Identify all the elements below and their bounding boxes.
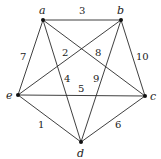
edge-d-c [81, 96, 145, 142]
node-b [119, 18, 123, 22]
node-label-b: b [117, 4, 124, 17]
node-label-c: c [150, 90, 156, 103]
edge-a-c [43, 20, 145, 96]
node-a [41, 18, 45, 22]
edge-a-d [43, 20, 81, 142]
weight-e-c: 5 [78, 83, 84, 94]
node-c [143, 94, 147, 98]
node-label-d: d [77, 147, 84, 159]
weight-a-c: 8 [95, 47, 101, 58]
node-d [79, 140, 83, 144]
weight-d-c: 6 [115, 119, 121, 130]
node-e [16, 93, 20, 97]
weight-a-d: 4 [64, 73, 70, 84]
weight-b-d: 9 [93, 73, 99, 84]
weight-a-e: 7 [20, 51, 26, 62]
weight-a-b: 3 [79, 5, 85, 16]
weight-e-d: 1 [38, 119, 44, 130]
node-label-a: a [39, 4, 46, 17]
node-label-e: e [6, 89, 13, 102]
weighted-graph-diagram: a b c d e 3 7 4 8 2 9 10 5 1 6 [0, 0, 161, 159]
weight-b-c: 10 [136, 51, 149, 62]
edge-e-c [18, 95, 145, 96]
edge-e-d [18, 95, 81, 142]
weight-b-e: 2 [62, 47, 68, 58]
